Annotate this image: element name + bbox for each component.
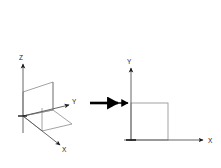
square-shape	[131, 103, 168, 140]
y-axis-3d	[23, 105, 69, 116]
panel-3d: Z Y X	[18, 54, 77, 153]
x-axis-label-2d: X	[208, 137, 213, 144]
horizontal-plane-outline	[23, 110, 72, 131]
panel-2d: Y X	[118, 58, 213, 144]
y-axis-line	[23, 105, 69, 116]
y-axis-label-3d: Y	[72, 98, 77, 105]
geometry-projection-figure: Z Y X	[0, 0, 221, 168]
x-axis-label-3d: X	[62, 146, 67, 153]
figure-canvas: Z Y X	[0, 0, 221, 168]
x-axis-3d	[23, 116, 60, 145]
horizontal-plane-shape	[23, 108, 72, 131]
y-axis-label-2d: Y	[127, 58, 132, 65]
x-axis-line	[23, 116, 60, 145]
z-axis-label-3d: Z	[19, 54, 23, 61]
